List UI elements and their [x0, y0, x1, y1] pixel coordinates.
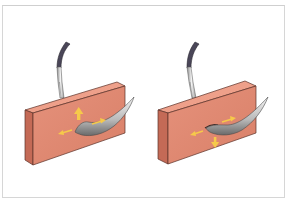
needle-holder	[187, 67, 196, 98]
suturing-illustration	[0, 0, 293, 207]
holder-cable	[57, 42, 70, 68]
tissue-block-side	[158, 110, 168, 164]
right-panel	[158, 42, 268, 164]
left-panel	[25, 42, 134, 165]
holder-cable	[187, 42, 199, 68]
tissue-block-side	[25, 110, 33, 165]
